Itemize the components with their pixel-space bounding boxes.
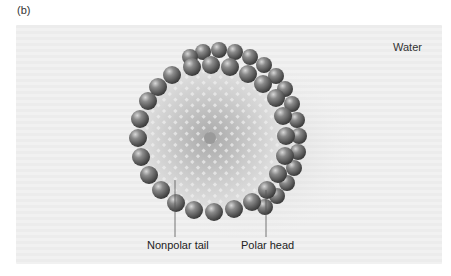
nonpolar-tail-label: Nonpolar tail [147, 239, 209, 251]
micelle-illustration [0, 0, 451, 276]
polar-head-label: Polar head [241, 239, 294, 251]
